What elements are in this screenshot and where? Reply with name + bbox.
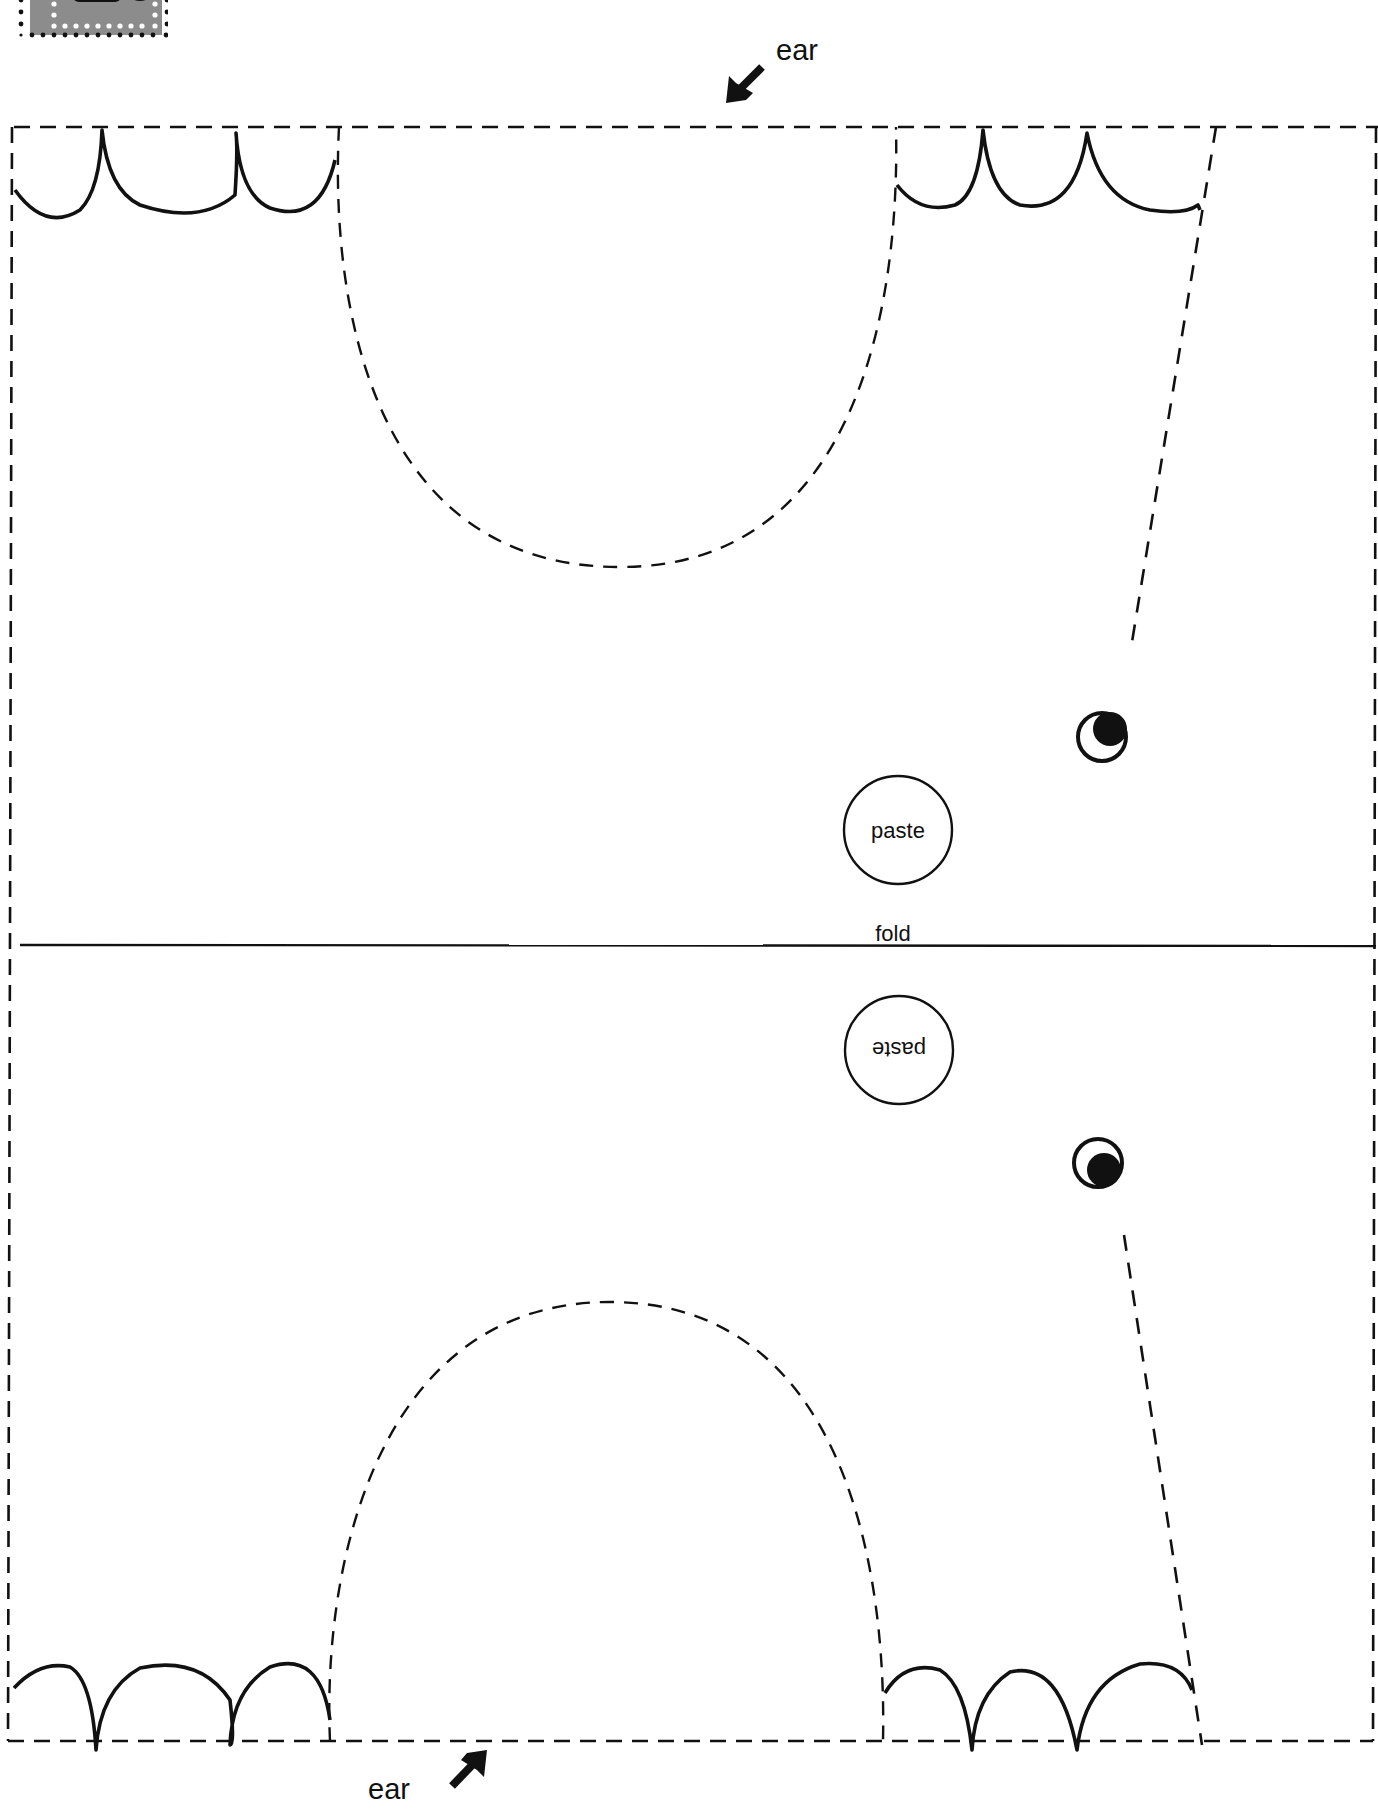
scallop-edge-bottom-left [14, 1664, 330, 1750]
cutout-sheet: paste paste fold ear ear [0, 0, 1378, 1811]
eye-icon [1074, 1139, 1122, 1187]
template-drawing: paste paste fold ear ear [0, 0, 1378, 1811]
paste-label-bottom: paste [872, 1037, 926, 1062]
scallop-edge-top-right [897, 130, 1200, 212]
scallop-edge-bottom-right [885, 1664, 1192, 1750]
paste-label-top: paste [871, 818, 925, 843]
fold-label: fold [875, 921, 910, 946]
ear-label-bottom: ear [368, 1773, 410, 1805]
trunk-line-bottom [1124, 1235, 1202, 1745]
trunk-line-top [1132, 127, 1216, 642]
outer-cut-border [8, 127, 1378, 1741]
scallop-edge-top-left [15, 130, 335, 218]
arrow-up-right-icon [452, 1750, 487, 1786]
ear-outline-bottom [329, 1302, 883, 1741]
ear-outline-top [338, 127, 896, 567]
ear-label-top: ear [776, 34, 818, 66]
eye-icon [1078, 712, 1127, 761]
arrow-down-left-icon [726, 67, 762, 103]
fold-line [20, 945, 1376, 946]
